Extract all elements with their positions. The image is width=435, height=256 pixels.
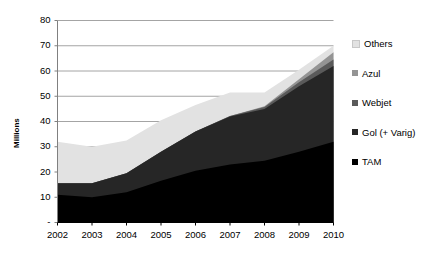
legend-label: Webjet xyxy=(362,97,391,108)
legend-item-gol-varig[interactable]: Gol (+ Varig) xyxy=(352,127,415,138)
y-tick-label: 20 xyxy=(25,167,51,177)
area-series-group xyxy=(58,46,334,223)
legend-swatch-icon xyxy=(352,129,358,135)
legend-label: Gol (+ Varig) xyxy=(362,127,415,138)
x-tick-label-2006: 2006 xyxy=(179,229,213,240)
x-tick-label-2005: 2005 xyxy=(144,229,178,240)
legend-label: TAM xyxy=(362,156,381,167)
legend-label: Others xyxy=(364,38,393,49)
stacked-area-chart: Millions -1020304050607080 2002200320042… xyxy=(0,0,435,256)
legend-swatch-icon xyxy=(352,40,360,48)
y-tick-label: 80 xyxy=(25,15,51,25)
x-tick-label-2007: 2007 xyxy=(213,229,247,240)
y-tick-label: - xyxy=(25,217,51,227)
x-tick-label-2009: 2009 xyxy=(282,229,316,240)
legend-item-tam[interactable]: TAM xyxy=(352,156,381,167)
y-tick-label: 30 xyxy=(25,141,51,151)
legend-swatch-icon xyxy=(352,159,358,165)
legend-swatch-icon xyxy=(352,100,358,106)
legend-item-others[interactable]: Others xyxy=(352,38,393,49)
x-tick-label-2003: 2003 xyxy=(75,229,109,240)
legend-item-webjet[interactable]: Webjet xyxy=(352,97,391,108)
y-tick-label: 60 xyxy=(25,66,51,76)
y-tick-label: 70 xyxy=(25,40,51,50)
y-tick-label: 50 xyxy=(25,91,51,101)
legend-item-azul[interactable]: Azul xyxy=(352,68,380,79)
x-tick-label-2002: 2002 xyxy=(41,229,75,240)
y-axis-title: Millions xyxy=(12,118,21,148)
y-tick-label: 40 xyxy=(25,116,51,126)
x-tick-label-2008: 2008 xyxy=(248,229,282,240)
legend-swatch-icon xyxy=(352,70,358,76)
x-tick-label-2004: 2004 xyxy=(110,229,144,240)
y-tick-label: 10 xyxy=(25,192,51,202)
x-tick-label-2010: 2010 xyxy=(317,229,351,240)
legend-label: Azul xyxy=(362,68,380,79)
